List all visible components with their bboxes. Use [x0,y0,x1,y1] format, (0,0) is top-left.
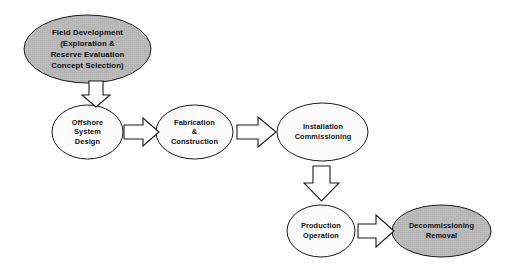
arrow-production-to-decommissioning-icon [358,215,394,247]
node-decommissioning-removal[interactable] [392,205,491,257]
node-field-development[interactable] [24,15,151,83]
flow-diagram-canvas [0,0,523,267]
node-fabrication-construction[interactable] [156,105,233,159]
node-installation-commissioning[interactable] [277,103,368,161]
node-offshore-system-design[interactable] [52,105,123,159]
arrow-fabrication-to-installation-icon [237,117,276,147]
arrow-installation-to-production-icon [304,166,339,201]
node-production-operation[interactable] [287,205,355,257]
arrow-offshore-to-fabrication-icon [124,118,159,146]
arrow-field-to-offshore-icon [82,81,110,107]
